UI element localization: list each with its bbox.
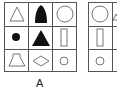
small-circle-outline-icon <box>94 55 106 67</box>
triangle-outline-icon <box>113 13 117 21</box>
triangle-filled-icon <box>31 29 51 47</box>
diamond-outline-icon <box>31 54 51 68</box>
rectangle-outline-icon <box>94 28 106 48</box>
circle-outline-icon <box>90 4 110 24</box>
trapezoid-outline-icon <box>7 52 27 68</box>
grid-divider <box>88 26 117 27</box>
grid-divider <box>4 49 77 50</box>
small-circle-outline-icon <box>58 55 70 67</box>
rectangle-outline-icon <box>58 28 70 48</box>
grid-divider <box>28 2 29 72</box>
grid-divider <box>52 2 53 72</box>
triangle-outline-icon <box>8 5 26 23</box>
bullet-filled-icon <box>32 4 50 24</box>
circle-outline-icon <box>55 4 75 24</box>
grid-divider <box>4 26 77 27</box>
dot-filled-icon <box>9 30 23 44</box>
panel-a-label: A <box>36 77 43 89</box>
grid-divider <box>88 49 117 50</box>
